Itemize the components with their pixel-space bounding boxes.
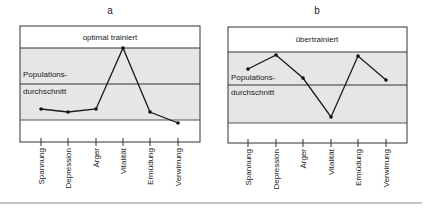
x-tick-label: Ärger (92, 148, 101, 168)
x-tick-label: Ermüdung (354, 149, 363, 186)
reference-label-line1-b: Populations- (231, 73, 276, 82)
panel-title-b: b (314, 5, 320, 16)
x-tick-label: Depression (64, 148, 73, 188)
x-tick-label: Spannung (37, 148, 46, 184)
reference-label-line2-b: durchschnitt (231, 88, 275, 97)
chart-panel-b: b übertrainiert Populations- durchschnit… (228, 5, 407, 189)
reference-label-line2-a: durchschnitt (23, 87, 67, 96)
x-tick-label: Vitalität (327, 148, 336, 175)
x-tick-label: Depression (272, 149, 281, 189)
panel-title-a: a (107, 5, 113, 16)
reference-label-line1-a: Populations- (23, 70, 68, 79)
x-tick-label: Ermüdung (146, 148, 155, 185)
x-tick-label: Spannung (244, 149, 253, 185)
x-tick-label: Vitalität (119, 147, 128, 174)
band-label-b: übertrainiert (296, 35, 339, 44)
x-tick-label: Verwirrung (174, 148, 183, 186)
x-tick-label: Verwirrung (382, 149, 391, 187)
figure: a optimal trainiert Populations- durchsc… (0, 0, 430, 215)
x-tick-label: Ärger (299, 149, 308, 169)
band-label-a: optimal trainiert (83, 33, 138, 42)
chart-panel-a: a optimal trainiert Populations- durchsc… (20, 5, 200, 188)
